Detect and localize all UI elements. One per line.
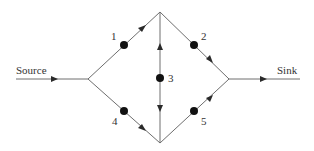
node-1 xyxy=(120,41,128,49)
node-5 xyxy=(190,107,198,115)
node-3 xyxy=(156,74,164,82)
edge-2-arrow-icon xyxy=(206,55,213,63)
node-2-label: 2 xyxy=(201,30,207,42)
source-label: Source xyxy=(16,64,47,76)
edge-3-down-arrow-icon xyxy=(157,105,163,112)
node-2 xyxy=(190,41,198,49)
node-4 xyxy=(120,107,128,115)
node-1-label: 1 xyxy=(111,30,117,42)
node-5-label: 5 xyxy=(201,115,207,127)
edge-3-up-arrow-icon xyxy=(157,43,163,50)
flow-network-diagram: 1 2 3 4 5 Source Sink xyxy=(0,0,314,151)
node-3-label: 3 xyxy=(168,72,174,84)
node-4-label: 4 xyxy=(112,115,118,127)
sink-arrow-icon xyxy=(260,76,267,82)
source-arrow-icon xyxy=(51,76,58,82)
sink-label: Sink xyxy=(277,64,298,76)
edge-5-arrow-icon xyxy=(206,95,213,102)
